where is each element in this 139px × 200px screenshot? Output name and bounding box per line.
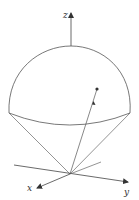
ice-cream-cone-diagram: z y x xyxy=(0,0,139,200)
position-vector xyxy=(70,89,97,174)
point xyxy=(95,87,98,90)
sphere-cap xyxy=(9,46,130,113)
x-axis-label: x xyxy=(27,183,32,193)
z-axis-label: z xyxy=(62,10,68,20)
y-axis-label: y xyxy=(123,187,130,197)
x-axis-back xyxy=(70,162,101,174)
cone-rim xyxy=(9,113,130,125)
x-axis xyxy=(37,174,70,188)
